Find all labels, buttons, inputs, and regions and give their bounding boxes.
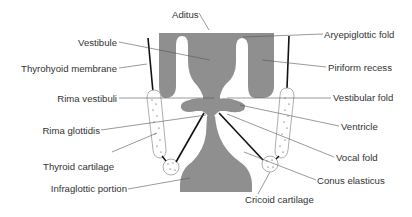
- label-thyroid-cartilage: Thyroid cartilage: [43, 161, 114, 172]
- label-ventricle: Ventricle: [341, 121, 378, 132]
- label-vocal-fold: Vocal fold: [336, 152, 378, 163]
- upper-tissue: [159, 33, 274, 100]
- label-aditus: Aditus: [172, 9, 199, 20]
- label-piriform-recess: Piriform recess: [328, 62, 392, 73]
- label-vestibule: Vestibule: [78, 37, 117, 48]
- label-rima-glottidis: Rima glottidis: [42, 125, 100, 136]
- label-aryepiglottic-fold: Aryepiglottic fold: [324, 29, 394, 40]
- thyroid-cartilage-right: [275, 88, 294, 158]
- label-conus-elasticus: Conus elasticus: [317, 175, 385, 186]
- label-thyrohyoid-membrane: Thyrohyoid membrane: [21, 63, 117, 74]
- infraglottic-tissue: [180, 116, 252, 192]
- label-rima-vestibuli: Rima vestibuli: [57, 93, 117, 104]
- thyroid-cartilage-left: [147, 90, 166, 158]
- label-infraglottic-portion: Infraglottic portion: [51, 183, 127, 194]
- label-cricoid-cartilage: Cricoid cartilage: [245, 194, 314, 205]
- label-vestibular-fold: Vestibular fold: [333, 92, 393, 103]
- thyrohyoid-membrane-right: [287, 36, 289, 88]
- vestibular-folds: [181, 98, 245, 116]
- thyrohyoid-membrane-left: [148, 38, 153, 92]
